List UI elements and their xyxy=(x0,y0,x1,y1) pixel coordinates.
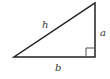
hypotenuse-label: h xyxy=(42,19,48,30)
right-angle-marker xyxy=(86,48,95,57)
right-triangle-diagram: h a b xyxy=(0,0,110,79)
vertical-leg-label: a xyxy=(100,27,106,38)
horizontal-leg-label: b xyxy=(55,62,61,73)
triangle-outline xyxy=(14,3,95,57)
